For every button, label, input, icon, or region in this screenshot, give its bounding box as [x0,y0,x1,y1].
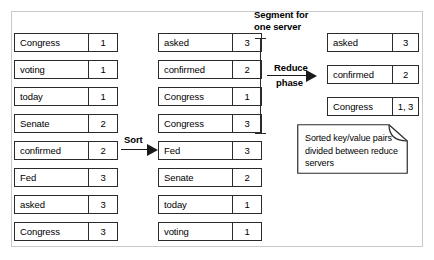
kv-pair-box: asked 3 [14,195,118,214]
kv-key: Fed [15,169,88,186]
kv-pair-box: Congress 3 [14,222,118,241]
kv-key: asked [159,34,232,51]
kv-pair-box: voting 1 [158,222,262,241]
kv-value: 3 [232,142,261,159]
sort-arrow-head-icon [147,144,158,156]
kv-key: confirmed [15,142,88,159]
kv-key: Congress [328,98,392,115]
kv-value: 1 [232,88,261,105]
segment-caption-line1: Segment for [254,9,308,21]
kv-pair-box: confirmed 2 [14,141,118,160]
kv-value: 3 [232,34,261,51]
kv-value: 3 [88,223,117,240]
kv-key: confirmed [328,66,392,83]
kv-value: 1 [88,34,117,51]
segment-bracket-bottom-cap [255,133,266,134]
kv-pair-box: asked 3 [158,33,262,52]
reduce-arrow-head-icon [306,70,317,82]
kv-key: today [159,196,232,213]
sort-arrow-label: Sort [124,134,143,145]
kv-pair-box: today 1 [158,195,262,214]
kv-value: 1 [232,223,261,240]
kv-value: 1, 3 [392,98,418,115]
kv-value: 2 [88,142,117,159]
kv-key: asked [15,196,88,213]
segment-bracket-top-cap [255,38,266,39]
kv-value: 1 [88,61,117,78]
kv-value: 2 [232,169,261,186]
kv-key: asked [328,34,392,51]
kv-value: 1 [232,196,261,213]
kv-key: Congress [159,88,232,105]
kv-value: 2 [392,66,418,83]
kv-key: Senate [159,169,232,186]
note-text: Sorted key/value pairs divided between r… [305,132,403,170]
kv-pair-box: Senate 2 [158,168,262,187]
mapreduce-diagram: Congress 1 voting 1 today 1 Senate 2 con… [0,0,434,260]
kv-key: Fed [159,142,232,159]
kv-key: voting [15,61,88,78]
kv-pair-box: Senate 2 [14,114,118,133]
kv-pair-box: asked 3 [327,33,419,52]
kv-value: 3 [232,115,261,132]
kv-pair-box: Fed 3 [14,168,118,187]
segment-bracket-stem [260,39,261,134]
kv-pair-box: Congress 1 [158,87,262,106]
kv-value: 3 [392,34,418,51]
kv-key: confirmed [159,61,232,78]
kv-pair-box: today 1 [14,87,118,106]
kv-value: 3 [88,169,117,186]
reduce-arrow-label-line1: Reduce [274,62,308,73]
note-callout: Sorted key/value pairs divided between r… [297,124,408,174]
segment-caption-line2: one server [254,21,308,33]
kv-key: Congress [15,223,88,240]
kv-value: 3 [88,196,117,213]
reduce-arrow-label-line2: phase [276,77,303,88]
kv-pair-box: Congress 3 [158,114,262,133]
kv-key: Congress [15,34,88,51]
segment-caption: Segment for one server [254,9,308,33]
kv-pair-box: Congress 1 [14,33,118,52]
kv-value: 1 [88,88,117,105]
reduce-arrow-shaft [267,75,309,76]
kv-key: voting [159,223,232,240]
kv-pair-box: Fed 3 [158,141,262,160]
kv-key: today [15,88,88,105]
sort-arrow-shaft [121,149,149,150]
kv-key: Congress [159,115,232,132]
kv-value: 2 [88,115,117,132]
kv-key: Senate [15,115,88,132]
kv-pair-box: confirmed 2 [158,60,262,79]
kv-pair-box: voting 1 [14,60,118,79]
kv-pair-box: Congress 1, 3 [327,97,419,116]
kv-pair-box: confirmed 2 [327,65,419,84]
kv-value: 2 [232,61,261,78]
